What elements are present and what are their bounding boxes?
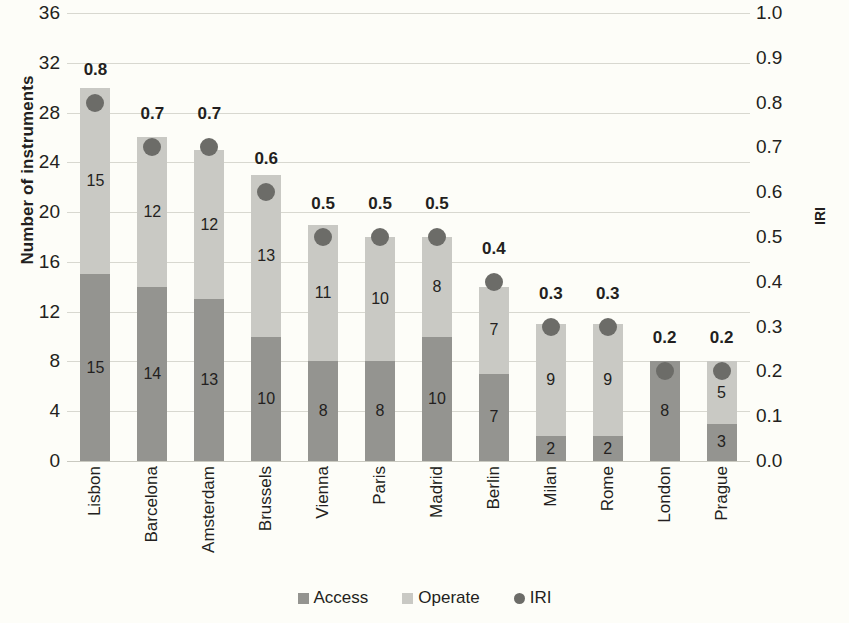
chart-legend: AccessOperateIRI bbox=[0, 588, 849, 608]
x-axis-label-text: Barcelona bbox=[142, 466, 162, 543]
bar-segment-operate[interactable]: 12 bbox=[137, 137, 167, 286]
legend-item[interactable]: Operate bbox=[402, 588, 479, 608]
secondary-y-tick-label: 0.7 bbox=[756, 137, 802, 156]
iri-marker[interactable] bbox=[314, 228, 332, 246]
secondary-y-tick-label: 1.0 bbox=[756, 3, 802, 22]
bar-segment-value: 12 bbox=[143, 204, 161, 220]
bar-segment-access[interactable]: 3 bbox=[707, 424, 737, 461]
bar-segment-access[interactable]: 13 bbox=[194, 299, 224, 461]
iri-data-label: 0.5 bbox=[350, 195, 410, 212]
y-tick-label: 12 bbox=[14, 302, 60, 321]
bar-group[interactable]: 8100.5 bbox=[365, 13, 395, 461]
bar-segment-operate[interactable]: 15 bbox=[80, 88, 110, 275]
x-axis-label-text: Vienna bbox=[313, 466, 333, 519]
iri-marker[interactable] bbox=[371, 228, 389, 246]
y-tick-label: 20 bbox=[14, 202, 60, 221]
bar-series: 15150.814120.713120.710130.68110.58100.5… bbox=[67, 13, 750, 461]
iri-marker[interactable] bbox=[713, 362, 731, 380]
bar-group[interactable]: 14120.7 bbox=[137, 13, 167, 461]
bar-segment-operate[interactable]: 7 bbox=[479, 287, 509, 374]
iri-data-label: 0.7 bbox=[122, 105, 182, 122]
bar-segment-operate[interactable]: 9 bbox=[593, 324, 623, 436]
axis-baseline bbox=[67, 461, 750, 462]
bar-segment-access[interactable]: 15 bbox=[80, 274, 110, 461]
x-axis-label-text: Amsterdam bbox=[199, 466, 219, 553]
secondary-y-tick-label: 0.3 bbox=[756, 317, 802, 336]
x-axis-label: Vienna bbox=[308, 466, 338, 576]
bar-group[interactable]: 770.4 bbox=[479, 13, 509, 461]
bar-segment-access[interactable]: 10 bbox=[422, 337, 452, 461]
bar-segment-access[interactable]: 14 bbox=[137, 287, 167, 461]
legend-item[interactable]: IRI bbox=[514, 588, 552, 608]
bar-segment-value: 7 bbox=[489, 409, 498, 425]
legend-label: Operate bbox=[418, 588, 479, 608]
iri-marker[interactable] bbox=[542, 318, 560, 336]
y-tick-label: 28 bbox=[14, 103, 60, 122]
bar-group[interactable]: 13120.7 bbox=[194, 13, 224, 461]
x-axis-label: Lisbon bbox=[80, 466, 110, 576]
x-axis-label: Madrid bbox=[422, 466, 452, 576]
iri-data-label: 0.4 bbox=[464, 240, 524, 257]
bar-group[interactable]: 8110.5 bbox=[308, 13, 338, 461]
bar-segment-value: 3 bbox=[717, 434, 726, 450]
legend-label: Access bbox=[314, 588, 369, 608]
secondary-y-tick-label: 0.9 bbox=[756, 48, 802, 67]
bar-group[interactable]: 290.3 bbox=[536, 13, 566, 461]
secondary-y-axis-ticks: 1.00.90.80.70.60.50.40.30.20.10.0 bbox=[756, 0, 802, 470]
x-axis-label-text: Lisbon bbox=[85, 466, 105, 516]
bar-group[interactable]: 80.2 bbox=[650, 13, 680, 461]
bar-segment-operate[interactable]: 8 bbox=[422, 237, 452, 337]
bar-segment-access[interactable]: 7 bbox=[479, 374, 509, 461]
bar-segment-access[interactable]: 2 bbox=[536, 436, 566, 461]
iri-marker[interactable] bbox=[656, 362, 674, 380]
bar-group[interactable]: 15150.8 bbox=[80, 13, 110, 461]
y-tick-label: 36 bbox=[14, 3, 60, 22]
bar-segment-value: 9 bbox=[546, 372, 555, 388]
secondary-y-tick-label: 0.5 bbox=[756, 227, 802, 246]
y-axis-ticks: 36322824201612840 bbox=[14, 0, 60, 470]
bar-group[interactable]: 1080.5 bbox=[422, 13, 452, 461]
bar-segment-access[interactable]: 8 bbox=[308, 361, 338, 461]
iri-data-label: 0.3 bbox=[578, 285, 638, 302]
secondary-y-tick-label: 0.4 bbox=[756, 272, 802, 291]
x-axis-label: Berlin bbox=[479, 466, 509, 576]
secondary-y-tick-label: 0.1 bbox=[756, 406, 802, 425]
x-axis-label: Rome bbox=[593, 466, 623, 576]
iri-marker[interactable] bbox=[599, 318, 617, 336]
x-axis-label-text: Brussels bbox=[256, 466, 276, 531]
x-axis-category-labels: LisbonBarcelonaAmsterdamBrusselsViennaPa… bbox=[67, 466, 750, 576]
y-tick-label: 24 bbox=[14, 152, 60, 171]
bar-segment-value: 8 bbox=[376, 403, 385, 419]
x-axis-label: Amsterdam bbox=[194, 466, 224, 576]
bar-segment-value: 11 bbox=[315, 285, 332, 301]
bar-segment-value: 15 bbox=[87, 173, 105, 189]
bar-segment-value: 2 bbox=[546, 441, 555, 457]
iri-marker[interactable] bbox=[428, 228, 446, 246]
bar-segment-value: 14 bbox=[143, 366, 161, 382]
bar-segment-value: 10 bbox=[371, 291, 389, 307]
bar-group[interactable]: 290.3 bbox=[593, 13, 623, 461]
iri-marker[interactable] bbox=[86, 94, 104, 112]
bar-segment-operate[interactable]: 12 bbox=[194, 150, 224, 299]
bar-group[interactable]: 10130.6 bbox=[251, 13, 281, 461]
iri-data-label: 0.8 bbox=[65, 61, 125, 78]
y-tick-label: 16 bbox=[14, 252, 60, 271]
legend-circle-icon bbox=[514, 593, 525, 604]
y-tick-label: 32 bbox=[14, 53, 60, 72]
bar-segment-access[interactable]: 2 bbox=[593, 436, 623, 461]
y-tick-label: 0 bbox=[14, 451, 60, 470]
bar-segment-operate[interactable]: 9 bbox=[536, 324, 566, 436]
bar-segment-value: 13 bbox=[257, 248, 275, 264]
bar-segment-access[interactable]: 8 bbox=[365, 361, 395, 461]
x-axis-label: Barcelona bbox=[137, 466, 167, 576]
secondary-y-tick-label: 0.6 bbox=[756, 182, 802, 201]
bar-segment-access[interactable]: 10 bbox=[251, 337, 281, 461]
iri-data-label: 0.5 bbox=[407, 195, 467, 212]
iri-data-label: 0.5 bbox=[293, 195, 353, 212]
x-axis-label: Paris bbox=[365, 466, 395, 576]
bar-group[interactable]: 350.2 bbox=[707, 13, 737, 461]
legend-item[interactable]: Access bbox=[298, 588, 369, 608]
iri-marker[interactable] bbox=[485, 273, 503, 291]
bar-segment-operate[interactable]: 10 bbox=[365, 237, 395, 361]
stacked-bar-chart: Number of instruments IRI 36322824201612… bbox=[0, 0, 849, 623]
